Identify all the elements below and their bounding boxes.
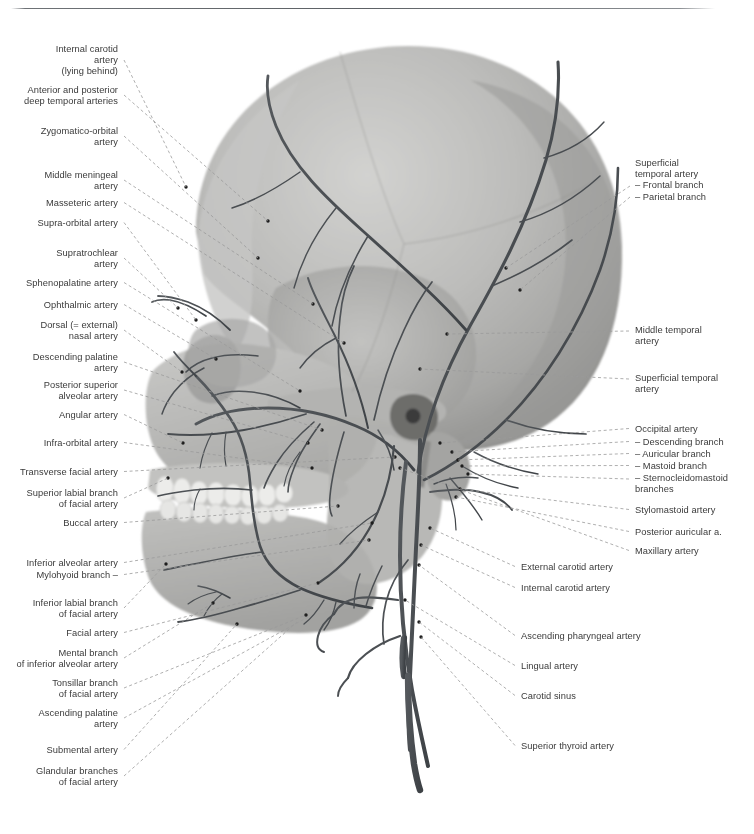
superior-thyroid-artery bbox=[348, 636, 400, 678]
label-internal-carotid-artery: Internal carotid artery bbox=[521, 583, 610, 594]
label-inferior-alveolar-artery: Inferior alveolar artery bbox=[26, 558, 118, 569]
label-masseteric-artery: Masseteric artery bbox=[46, 198, 118, 209]
label-dorsal-external-nasal-artery: Dorsal (= external) nasal artery bbox=[40, 320, 118, 342]
label-superficial-temporal-artery: Superficial temporal artery bbox=[635, 373, 718, 395]
label-submental-artery: Submental artery bbox=[46, 745, 118, 756]
label-ophthalmic-artery: Ophthalmic artery bbox=[44, 300, 118, 311]
label-superficial-temporal-artery-branches: Superficial temporal artery – Frontal br… bbox=[635, 158, 706, 203]
label-superior-thyroid-artery: Superior thyroid artery bbox=[521, 741, 614, 752]
label-mental-branch-of-inferior-alveolar-artery: Mental branch of inferior alveolar arter… bbox=[17, 648, 119, 670]
label-descending-palatine-artery: Descending palatine artery bbox=[33, 352, 118, 374]
label-sphenopalatine-artery: Sphenopalatine artery bbox=[26, 278, 118, 289]
label-lingual-artery: Lingual artery bbox=[521, 661, 578, 672]
carotid-sinus bbox=[403, 638, 405, 676]
label-external-carotid-artery: External carotid artery bbox=[521, 562, 613, 573]
figure-page: Internal carotid artery (lying behind)An… bbox=[0, 0, 754, 834]
label-internal-carotid-artery-lying-behind: Internal carotid artery (lying behind) bbox=[56, 44, 118, 78]
skull-bone-group bbox=[142, 46, 622, 633]
orbit bbox=[189, 319, 277, 388]
label-infra-orbital-artery: Infra-orbital artery bbox=[44, 438, 118, 449]
label-buccal-artery: Buccal artery bbox=[63, 518, 118, 529]
label-auricular-branch: – Auricular branch bbox=[635, 449, 711, 460]
label-anterior-and-posterior-deep-temporal-arteries: Anterior and posterior deep temporal art… bbox=[24, 85, 118, 107]
label-middle-temporal-artery: Middle temporal artery bbox=[635, 325, 702, 347]
label-transverse-facial-artery: Transverse facial artery bbox=[20, 467, 118, 478]
label-carotid-sinus: Carotid sinus bbox=[521, 691, 576, 702]
superior-thyroid-loop bbox=[338, 678, 348, 696]
label-supra-orbital-artery: Supra-orbital artery bbox=[37, 218, 118, 229]
label-maxillary-artery: Maxillary artery bbox=[635, 546, 699, 557]
label-angular-artery: Angular artery bbox=[59, 410, 118, 421]
label-mastoid-branch: – Mastoid branch bbox=[635, 461, 707, 472]
label-stylomastoid-artery: Stylomastoid artery bbox=[635, 505, 715, 516]
label-zygomatico-orbital-artery: Zygomatico-orbital artery bbox=[41, 126, 118, 148]
label-occipital-artery: Occipital artery bbox=[635, 424, 698, 435]
label-middle-meningeal-artery: Middle meningeal artery bbox=[44, 170, 118, 192]
label-tonsillar-branch-of-facial-artery: Tonsillar branch of facial artery bbox=[52, 678, 118, 700]
label-glandular-branches-of-facial-artery: Glandular branches of facial artery bbox=[36, 766, 118, 788]
label-posterior-auricular-artery: Posterior auricular a. bbox=[635, 527, 722, 538]
label-inferior-labial-branch-of-facial-artery: Inferior labial branch of facial artery bbox=[33, 598, 118, 620]
meatus-opening bbox=[406, 409, 421, 424]
label-sternocleidomastoid-branches: – Sternocleidomastoid branches bbox=[635, 473, 728, 495]
label-ascending-pharyngeal-artery: Ascending pharyngeal artery bbox=[521, 631, 641, 642]
label-supratrochlear-artery: Supratrochlear artery bbox=[56, 248, 118, 270]
label-superior-labial-branch-of-facial-artery: Superior labial branch of facial artery bbox=[27, 488, 118, 510]
label-ascending-palatine-artery: Ascending palatine artery bbox=[39, 708, 118, 730]
label-posterior-superior-alveolar-artery: Posterior superior alveolar artery bbox=[44, 380, 118, 402]
occipital-auricular-branch bbox=[474, 452, 538, 474]
label-descending-branch: – Descending branch bbox=[635, 437, 724, 448]
label-mylohyoid-branch: Mylohyoid branch – bbox=[37, 570, 118, 581]
label-facial-artery: Facial artery bbox=[66, 628, 118, 639]
